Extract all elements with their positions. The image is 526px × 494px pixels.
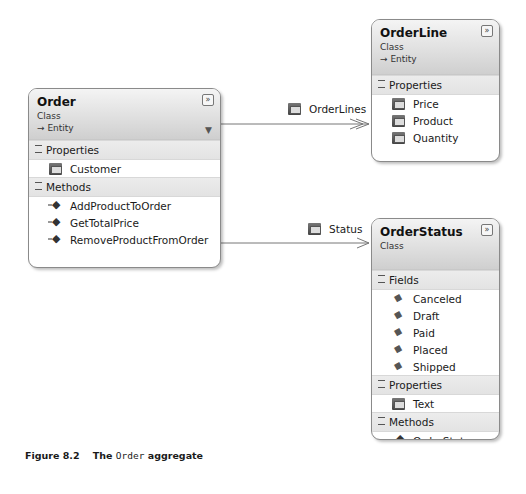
property-icon (288, 103, 301, 115)
collapse-section-icon[interactable] (378, 275, 385, 283)
collapse-section-icon[interactable] (378, 417, 385, 425)
collapse-icon[interactable]: » (481, 25, 493, 37)
field-item[interactable]: Shipped (372, 358, 499, 375)
collapse-section-icon[interactable] (378, 80, 385, 88)
section-methods[interactable]: Methods (29, 177, 220, 197)
field-icon (392, 310, 405, 322)
property-icon (392, 98, 405, 110)
method-item[interactable]: RemoveProductFromOrder (29, 231, 220, 248)
class-stereotype: Class (380, 241, 491, 251)
class-name: Order (37, 95, 212, 109)
property-icon (392, 115, 405, 127)
field-item[interactable]: Canceled (372, 290, 499, 307)
method-item[interactable]: GetTotalPrice (29, 214, 220, 231)
class-base: → Entity (380, 54, 491, 64)
caption-code: Order (116, 450, 145, 461)
method-icon (49, 234, 62, 246)
method-icon (49, 200, 62, 212)
field-item[interactable]: Draft (372, 307, 499, 324)
property-item[interactable]: Quantity (372, 129, 499, 146)
class-header: OrderLine Class → Entity » (372, 20, 499, 75)
section-properties[interactable]: Properties (372, 75, 499, 95)
class-name: OrderLine (380, 26, 491, 40)
property-item[interactable]: Price (372, 95, 499, 112)
class-header: Order Class → Entity » ▼ (29, 89, 220, 140)
field-item[interactable]: Paid (372, 324, 499, 341)
constructor-item[interactable]: OrderStatus (372, 432, 499, 440)
association-label-orderlines[interactable]: OrderLines (288, 103, 366, 115)
section-properties[interactable]: Properties (29, 140, 220, 160)
class-header: OrderStatus Class » (372, 219, 499, 270)
filter-icon[interactable]: ▼ (205, 125, 212, 135)
class-order[interactable]: Order Class → Entity » ▼ Properties Cust… (28, 88, 221, 268)
collapse-icon[interactable]: » (202, 94, 214, 106)
field-icon (392, 344, 405, 356)
property-icon (392, 132, 405, 144)
field-item[interactable]: Placed (372, 341, 499, 358)
class-stereotype: Class (37, 111, 212, 121)
section-methods[interactable]: Methods (372, 412, 499, 432)
collapse-section-icon[interactable] (35, 145, 42, 153)
constructor-icon (392, 435, 405, 441)
collapse-section-icon[interactable] (378, 380, 385, 388)
property-icon (308, 223, 321, 235)
field-icon (392, 293, 405, 305)
collapse-section-icon[interactable] (35, 182, 42, 190)
class-orderline[interactable]: OrderLine Class → Entity » Properties Pr… (371, 19, 500, 162)
association-label-status[interactable]: Status (308, 223, 362, 235)
class-stereotype: Class (380, 42, 491, 52)
field-icon (392, 327, 405, 339)
section-properties[interactable]: Properties (372, 375, 499, 395)
collapse-icon[interactable]: » (481, 224, 493, 236)
property-item[interactable]: Customer (29, 160, 220, 177)
section-fields[interactable]: Fields (372, 270, 499, 290)
class-base: → Entity (37, 123, 212, 133)
class-name: OrderStatus (380, 225, 491, 239)
figure-caption: Figure 8.2 The Order aggregate (25, 450, 203, 461)
property-icon (49, 163, 62, 175)
property-item[interactable]: Text (372, 395, 499, 412)
class-orderstatus[interactable]: OrderStatus Class » Fields Canceled Draf… (371, 218, 500, 440)
method-icon (49, 217, 62, 229)
field-icon (392, 361, 405, 373)
method-item[interactable]: AddProductToOrder (29, 197, 220, 214)
property-icon (392, 398, 405, 410)
property-item[interactable]: Product (372, 112, 499, 129)
